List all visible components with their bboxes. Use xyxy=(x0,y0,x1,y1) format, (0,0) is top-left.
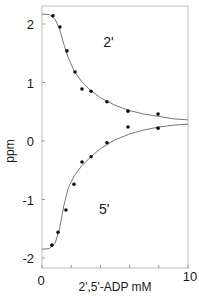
labels: 2'5' xyxy=(99,34,114,217)
data-point xyxy=(126,109,130,113)
data-point xyxy=(50,243,54,247)
y-tick-label: 1 xyxy=(27,76,34,91)
data-point xyxy=(126,125,130,129)
data-point xyxy=(72,182,76,186)
x-axis-label: 2',5'-ADP mM xyxy=(78,280,151,294)
fit-curves xyxy=(42,14,188,249)
nmr-shift-chart: -2-10120102',5'-ADP mMppm 2'5' xyxy=(0,0,199,297)
axes: -2-10120102',5'-ADP mMppm xyxy=(3,6,197,294)
y-tick-label: -1 xyxy=(22,193,34,208)
data-point xyxy=(58,25,62,29)
data-point xyxy=(156,112,160,116)
y-axis-label: ppm xyxy=(3,139,17,162)
data-point xyxy=(80,160,84,164)
data-point xyxy=(65,49,69,53)
data-point xyxy=(64,208,68,212)
data-point xyxy=(89,89,93,93)
data-point xyxy=(105,141,109,145)
y-tick-label: 2 xyxy=(27,17,34,32)
x-tick-label: 0 xyxy=(37,273,44,288)
fit-curve xyxy=(42,124,188,249)
data-point xyxy=(73,70,77,74)
data-point xyxy=(89,155,93,159)
series-label: 2' xyxy=(103,34,113,50)
series-label: 5' xyxy=(99,201,109,217)
x-tick-label: 10 xyxy=(183,269,197,284)
fit-curve xyxy=(42,14,188,120)
y-tick-label: 0 xyxy=(27,134,34,149)
data-point xyxy=(51,14,55,18)
data-point xyxy=(156,126,160,130)
data-point xyxy=(56,230,60,234)
data-point xyxy=(105,100,109,104)
y-tick-label: -2 xyxy=(22,251,34,266)
data-point xyxy=(80,87,84,91)
